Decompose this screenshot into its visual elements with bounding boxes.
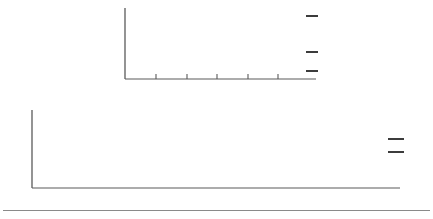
level-markers-bottom (388, 139, 404, 152)
x-ticks-top (156, 74, 278, 79)
timing-diagram-top (0, 0, 433, 105)
timing-diagram-top-svg (0, 0, 433, 105)
timing-diagram-bottom-svg (0, 105, 433, 205)
timing-diagram-bottom (0, 105, 433, 205)
level-markers-top (306, 16, 318, 71)
page-divider-rule (3, 210, 430, 211)
